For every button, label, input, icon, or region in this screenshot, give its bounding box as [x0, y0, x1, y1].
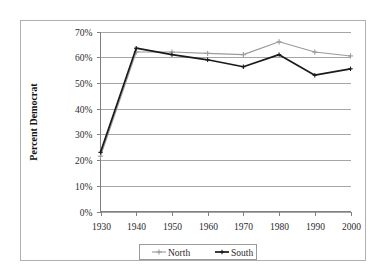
chart-figure: 0%10%20%30%40%50%60%70% 1930194019501960…	[0, 0, 385, 278]
y-tick-label: 0%	[80, 208, 93, 218]
x-tick-label: 1940	[127, 222, 146, 232]
y-axis-title: Percent Democrat	[28, 83, 39, 161]
y-tick-label: 10%	[75, 182, 93, 192]
chart-legend: NorthSouth	[140, 245, 257, 260]
chart-background	[0, 0, 385, 278]
legend-label: North	[168, 248, 190, 258]
y-tick-label: 30%	[75, 130, 93, 140]
legend-label: South	[231, 248, 253, 258]
y-tick-label: 70%	[75, 28, 93, 38]
line-chart: 0%10%20%30%40%50%60%70% 1930194019501960…	[0, 0, 385, 278]
y-tick-label: 40%	[75, 105, 93, 115]
x-tick-label: 1990	[306, 222, 325, 232]
x-tick-label: 1960	[199, 222, 218, 232]
y-tick-label: 50%	[75, 79, 93, 89]
x-tick-label: 1980	[270, 222, 289, 232]
y-tick-label: 20%	[75, 156, 93, 166]
x-tick-label: 1930	[92, 222, 111, 232]
x-tick-label: 2000	[342, 222, 361, 232]
y-tick-label: 60%	[75, 53, 93, 63]
x-tick-label: 1970	[234, 222, 253, 232]
x-tick-label: 1950	[163, 222, 182, 232]
